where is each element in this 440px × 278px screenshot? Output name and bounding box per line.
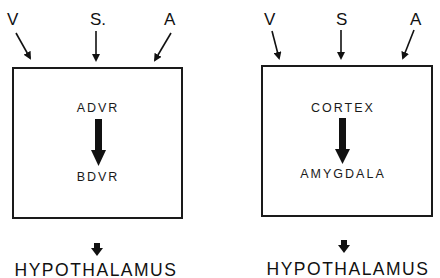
left-region-box [12, 67, 183, 219]
output-label-hypothalamus-right: HYPOTHALAMUS [253, 259, 440, 278]
arrow-v-right [272, 31, 279, 58]
input-label-v: V [264, 11, 275, 28]
output-arrow-left [91, 243, 103, 256]
arrow-v-left [16, 33, 30, 58]
arrow-a-right [403, 30, 414, 58]
input-label-s: S. [90, 11, 106, 28]
right-input-arrows [272, 30, 414, 58]
target-label-amygdala: AMYGDALA [283, 167, 403, 181]
right-region-box [261, 65, 433, 217]
left-input-arrows [16, 31, 171, 60]
target-label-bdvr: BDVR [38, 170, 158, 184]
source-label-cortex: CORTEX [283, 101, 403, 115]
output-arrow-right [338, 240, 350, 253]
output-label-hypothalamus-left: HYPOTHALAMUS [1, 260, 191, 278]
arrow-a-left [155, 33, 171, 60]
input-label-a: A [410, 11, 421, 28]
input-label-v: V [7, 11, 18, 28]
input-label-s: S [336, 11, 347, 28]
input-label-a: A [164, 11, 175, 28]
source-label-advr: ADVR [38, 101, 158, 115]
